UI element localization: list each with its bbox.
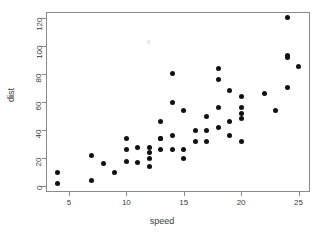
y-axis-title: dist <box>6 88 16 102</box>
data-point <box>158 147 163 152</box>
y-tick-label: 120 <box>35 17 44 30</box>
data-point <box>204 128 209 133</box>
data-point <box>124 136 129 141</box>
data-point <box>262 91 267 96</box>
scatter-plot: 510152025020406080100120 speed dist <box>0 0 324 239</box>
data-point <box>55 181 60 186</box>
x-tick-label: 5 <box>67 198 71 207</box>
x-tick-label: 25 <box>294 198 303 207</box>
data-point <box>204 114 209 119</box>
y-tick-label: 80 <box>35 73 44 82</box>
x-tick-label: 15 <box>179 198 188 207</box>
data-point <box>170 147 175 152</box>
data-point <box>181 147 186 152</box>
data-point <box>181 108 186 113</box>
data-point <box>147 156 152 161</box>
data-point <box>193 139 198 144</box>
data-point <box>239 94 244 99</box>
data-point <box>193 128 198 133</box>
data-points-layer <box>0 0 324 239</box>
data-point <box>158 136 163 141</box>
data-point <box>147 164 152 169</box>
data-point <box>89 178 94 183</box>
data-point <box>296 64 301 69</box>
data-point <box>273 108 278 113</box>
data-point <box>239 116 244 121</box>
data-point <box>147 145 152 150</box>
data-point <box>216 77 221 82</box>
x-axis-title: speed <box>0 216 324 226</box>
data-point <box>181 156 186 161</box>
data-point <box>239 105 244 110</box>
x-tick-mark <box>241 192 242 196</box>
data-point <box>227 88 232 93</box>
data-point <box>89 153 94 158</box>
x-tick-mark <box>126 192 127 196</box>
data-point <box>55 170 60 175</box>
data-point <box>285 15 290 20</box>
y-tick-label: 0 <box>35 186 44 190</box>
data-point <box>216 105 221 110</box>
y-tick-label: 60 <box>35 102 44 111</box>
data-point <box>239 111 244 116</box>
data-point <box>170 133 175 138</box>
data-point <box>112 170 117 175</box>
data-point <box>227 119 232 124</box>
data-point <box>135 160 140 165</box>
x-tick-mark <box>299 192 300 196</box>
data-point <box>216 66 221 71</box>
y-tick-label: 20 <box>35 158 44 167</box>
x-tick-label: 20 <box>237 198 246 207</box>
x-tick-mark <box>69 192 70 196</box>
data-point <box>124 159 129 164</box>
data-point <box>170 71 175 76</box>
data-point <box>285 85 290 90</box>
data-point <box>216 125 221 130</box>
data-point <box>285 53 290 58</box>
data-point <box>158 119 163 124</box>
data-point <box>170 100 175 105</box>
data-point <box>135 145 140 150</box>
x-tick-mark <box>184 192 185 196</box>
data-point <box>147 150 152 155</box>
y-tick-label: 40 <box>35 130 44 139</box>
data-point <box>239 139 244 144</box>
x-tick-label: 10 <box>122 198 131 207</box>
data-point <box>227 133 232 138</box>
data-point <box>124 147 129 152</box>
data-point <box>204 139 209 144</box>
y-tick-label: 100 <box>35 45 44 58</box>
data-point <box>101 161 106 166</box>
